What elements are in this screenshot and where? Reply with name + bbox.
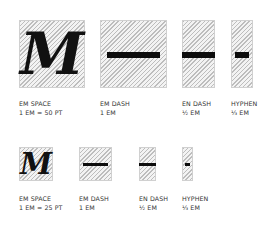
hyphen-box-large [231,20,253,88]
label-en-dash-small: EN DASH ½ EM [139,195,168,212]
label-size: ½ EM [139,204,168,213]
em-space-box-small: M [19,147,53,181]
label-size: ⅓ EM [231,109,257,118]
hyphen-bar [185,163,190,166]
label-name: EM DASH [79,195,109,204]
label-name: EN DASH [139,195,168,204]
label-size: 1 EM [100,109,130,118]
em-space-box-large: M [19,20,85,88]
en-dash-bar [139,163,156,166]
em-dash-box-large [100,20,167,88]
label-name: EM DASH [100,100,130,109]
label-em-space-large: EM SPACE 1 EM = 50 PT [19,100,63,117]
label-em-dash-large: EM DASH 1 EM [100,100,130,117]
label-en-dash-large: EN DASH ½ EM [182,100,211,117]
label-hyphen-large: HYPHEN ⅓ EM [231,100,257,117]
em-dash-bar [107,52,160,58]
label-name: HYPHEN [231,100,257,109]
label-name: EM SPACE [19,195,63,204]
label-em-space-small: EM SPACE 1 EM = 25 PT [19,195,63,212]
en-dash-box-large [182,20,215,88]
em-dash-box-small [79,147,112,181]
label-name: HYPHEN [182,195,208,204]
label-name: EM SPACE [19,100,63,109]
label-name: EN DASH [182,100,211,109]
label-size: 1 EM [79,204,109,213]
em-glyph: M [20,23,84,85]
em-dash-bar [83,163,108,166]
hyphen-bar [235,52,249,58]
en-dash-bar [182,52,215,58]
label-em-dash-small: EM DASH 1 EM [79,195,109,212]
hyphen-box-small [182,147,193,181]
label-size: 1 EM = 25 PT [19,204,63,213]
label-size: 1 EM = 50 PT [19,109,63,118]
en-dash-box-small [139,147,156,181]
em-glyph: M [20,149,52,180]
label-size: ⅓ EM [182,204,208,213]
label-size: ½ EM [182,109,211,118]
label-hyphen-small: HYPHEN ⅓ EM [182,195,208,212]
